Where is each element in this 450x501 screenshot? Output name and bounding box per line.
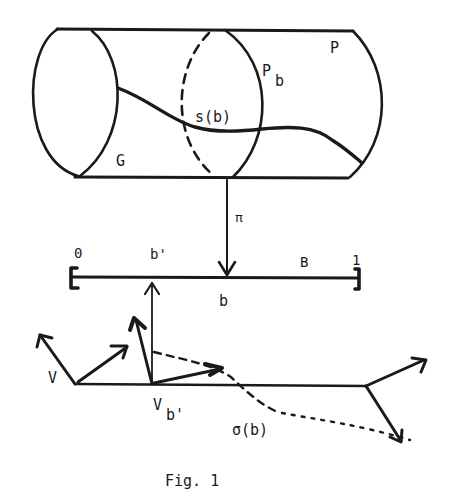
figure-caption: Fig. 1 (165, 472, 219, 490)
fiber-Pb-dashed-arc (182, 33, 213, 175)
lower-base-line (75, 384, 367, 386)
base-interval-B (71, 268, 359, 289)
frame-end-vec1 (366, 360, 424, 386)
figure-canvas: P P b s(b) G π 0 b' B 1 b (0, 0, 450, 501)
label-Pb-sub: b (275, 72, 284, 90)
cylinder-bottom-edge (75, 177, 348, 178)
projection-arrow (219, 180, 235, 275)
frame-V-vec2 (78, 347, 127, 382)
label-B: B (300, 254, 308, 270)
label-section-s: s(b) (195, 108, 231, 126)
diagram-svg: P P b s(b) G π 0 b' B 1 b (0, 0, 450, 501)
label-Pb-main: P (262, 62, 271, 80)
label-1: 1 (352, 252, 360, 268)
label-P: P (330, 39, 339, 57)
section-sigma-dashed (154, 352, 280, 413)
section-s-curve (118, 88, 362, 163)
left-end-front-arc (80, 31, 118, 176)
label-section-sigma: σ(b) (232, 421, 268, 439)
label-b: b (219, 292, 228, 310)
label-pi: π (235, 210, 243, 225)
cylinder-top-edge (57, 29, 353, 31)
label-V: V (48, 369, 57, 387)
base-line (71, 277, 358, 278)
label-b-prime: b' (150, 246, 167, 262)
frame-V-vec1 (40, 335, 75, 384)
label-G: G (116, 152, 125, 170)
label-Vb-sub: b' (166, 406, 184, 424)
left-end-back-arc (33, 29, 78, 176)
label-0: 0 (74, 245, 82, 261)
fiber-Pb-solid-arc (225, 30, 262, 177)
label-Vb-main: V (153, 396, 162, 414)
